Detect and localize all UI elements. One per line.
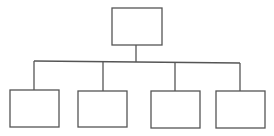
child-node-box [151, 91, 200, 128]
org-chart-svg [0, 0, 274, 136]
child-node-box [216, 91, 265, 128]
horizontal-connector-bar [34, 61, 240, 63]
child-node-box [78, 91, 127, 127]
root-node-box [112, 8, 162, 45]
child-node-box [10, 90, 59, 127]
child-connector-lines [34, 61, 240, 91]
child-nodes [10, 90, 265, 128]
org-chart-diagram [0, 0, 274, 136]
